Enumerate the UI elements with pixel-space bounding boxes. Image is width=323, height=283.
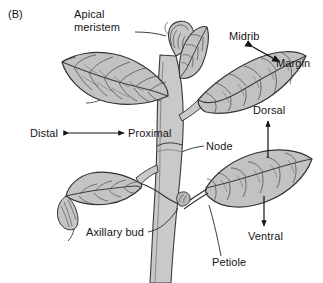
label-ventral: Ventral	[248, 230, 283, 243]
label-proximal: Proximal	[128, 127, 172, 140]
label-petiole: Petiole	[212, 256, 246, 269]
label-apical-meristem: Apical meristem	[74, 8, 120, 33]
panel-label: (B)	[8, 8, 23, 20]
label-axillary-bud: Axillary bud	[86, 226, 144, 239]
label-dorsal: Dorsal	[253, 104, 285, 117]
label-margin: Margin	[276, 57, 310, 70]
label-distal: Distal	[30, 127, 58, 140]
label-node: Node	[206, 140, 233, 153]
label-midrib: Midrib	[229, 30, 260, 43]
